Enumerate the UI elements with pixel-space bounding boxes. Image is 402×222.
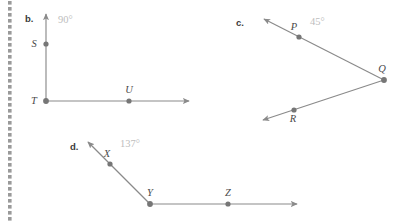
point-X-dot bbox=[107, 161, 112, 166]
angle-label-d: 137° bbox=[120, 138, 140, 149]
ray-QP bbox=[264, 19, 384, 80]
angles-diagram: b. S T U 90° c. P Q R 45° d. bbox=[0, 0, 402, 222]
figure-c-acute-angle: c. P Q R 45° bbox=[236, 16, 387, 124]
spiral-binding-dots bbox=[8, 1, 12, 221]
point-U-dot bbox=[126, 98, 131, 103]
point-label-Q: Q bbox=[378, 63, 386, 74]
point-Y-dot bbox=[147, 201, 153, 207]
point-T-dot bbox=[43, 98, 49, 104]
angle-label-c: 45° bbox=[310, 16, 325, 27]
worksheet-figure-page: b. S T U 90° c. P Q R 45° d. bbox=[0, 0, 402, 222]
figure-b-right-angle: b. S T U 90° bbox=[25, 13, 189, 106]
point-S-dot bbox=[43, 41, 48, 46]
part-label-d: d. bbox=[70, 141, 78, 152]
point-label-Z: Z bbox=[225, 187, 231, 198]
figure-d-obtuse-angle: d. X Y Z 137° bbox=[70, 138, 297, 207]
point-label-X: X bbox=[103, 148, 111, 159]
point-label-R: R bbox=[289, 113, 297, 124]
part-label-b: b. bbox=[25, 13, 33, 24]
point-P-dot bbox=[296, 34, 301, 39]
point-Z-dot bbox=[225, 201, 230, 206]
point-label-U: U bbox=[125, 84, 134, 95]
ray-YX bbox=[88, 142, 150, 204]
point-label-S: S bbox=[31, 38, 37, 49]
point-label-Y: Y bbox=[147, 187, 154, 198]
part-label-c: c. bbox=[236, 17, 244, 28]
point-Q-dot bbox=[381, 77, 387, 83]
point-R-dot bbox=[291, 107, 296, 112]
ray-QR bbox=[263, 80, 384, 120]
point-label-P: P bbox=[290, 21, 298, 32]
point-label-T: T bbox=[31, 95, 38, 106]
angle-label-b: 90° bbox=[58, 14, 73, 25]
